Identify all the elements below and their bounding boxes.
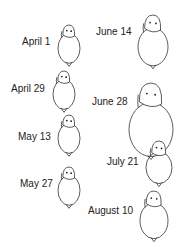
stage-label: May 13: [18, 131, 51, 142]
stage-figure: [138, 14, 168, 70]
stage-label: April 1: [22, 36, 50, 47]
stage-label: June 28: [92, 96, 128, 107]
organism-icon: [58, 24, 80, 68]
stage-figure: [58, 166, 80, 210]
organism-icon: [138, 14, 168, 70]
stage-figure: [53, 70, 75, 114]
stage-label: July 21: [107, 156, 139, 167]
stage-label: May 27: [20, 178, 53, 189]
stage-figure: [146, 140, 172, 188]
organism-icon: [53, 70, 75, 114]
stage-figure: [58, 24, 80, 68]
stage-figure: [140, 190, 168, 242]
organism-icon: [140, 190, 168, 242]
organism-icon: [58, 166, 80, 210]
organism-icon: [146, 140, 172, 188]
stage-figure: [58, 114, 80, 158]
stage-label: April 29: [11, 83, 45, 94]
stage-label: June 14: [96, 26, 132, 37]
organism-icon: [58, 114, 80, 158]
stage-label: August 10: [88, 205, 133, 216]
